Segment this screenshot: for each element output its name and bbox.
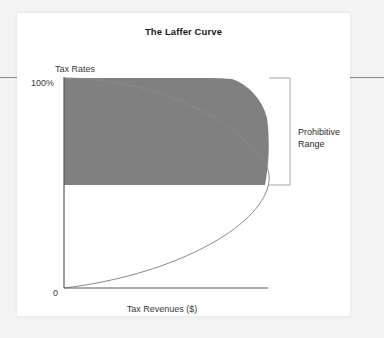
prohibitive-range-line1: Prohibitive [298, 126, 354, 138]
y-axis-label: Tax Rates [55, 64, 95, 74]
prohibitive-range-annotation: Prohibitive Range [298, 126, 354, 150]
laffer-curve-plot [17, 13, 350, 316]
prohibitive-range-shading [64, 78, 269, 185]
right-edge-rule [349, 77, 384, 78]
prohibitive-range-line2: Range [298, 138, 354, 150]
y-tick-label-100: 100% [31, 78, 54, 88]
y-tick-label-0: 0 [53, 288, 58, 298]
left-edge-rule [0, 77, 18, 78]
prohibitive-range-bracket [269, 78, 290, 185]
page-background: The Laffer Curve Tax Rates 100% 0 Tax Re… [0, 0, 384, 338]
x-axis-label: Tax Revenues ($) [17, 304, 307, 314]
chart-card: The Laffer Curve Tax Rates 100% 0 Tax Re… [17, 13, 350, 316]
